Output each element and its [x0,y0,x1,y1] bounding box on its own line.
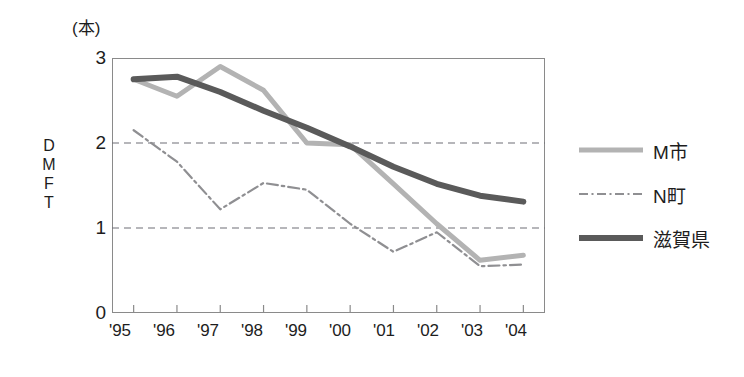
legend-swatch-m-city [578,142,644,158]
legend-item-m-city: M市 [578,128,738,172]
y-tick-label-3: 3 [80,48,106,67]
series-line-m-city [134,67,524,261]
y-axis-unit-label: (本) [72,14,100,39]
legend-label-n-town: N町 [653,181,686,208]
x-axis-ticks [134,305,524,313]
y-tick-label-0: 0 [80,303,106,322]
x-tick-label-99: '99 [275,322,317,340]
y-axis-title-char-f: F [38,174,60,193]
legend-swatch-n-town [578,186,644,202]
y-axis-title-char-d: D [38,136,60,155]
x-tick-label-98: '98 [231,322,273,340]
x-tick-label-97: '97 [187,322,229,340]
x-tick-label-95: '95 [99,322,141,340]
chart-figure: (本) D M F T 3 2 1 0 '95 '96 '97 '98 '99 … [0,0,744,377]
y-tick-label-1: 1 [80,218,106,237]
x-tick-label-00: '00 [319,322,361,340]
chart-legend: M市 N町 滋賀県 [578,128,738,260]
x-tick-label-01: '01 [363,322,405,340]
x-tick-label-03: '03 [451,322,493,340]
legend-swatch-prefecture [578,230,644,246]
legend-item-n-town: N町 [578,172,738,216]
y-tick-label-2: 2 [80,133,106,152]
series-line-prefecture [134,77,524,202]
legend-item-prefecture: 滋賀県 [578,216,738,260]
y-axis-title-char-t: T [38,193,60,212]
y-axis-title: D M F T [38,136,60,212]
y-axis-title-char-m: M [38,155,60,174]
plot-area [112,58,545,313]
x-tick-label-04: '04 [495,322,537,340]
chart-svg [112,58,545,313]
legend-label-m-city: M市 [653,137,688,164]
gridlines [112,143,545,228]
x-tick-label-96: '96 [143,322,185,340]
x-tick-label-02: '02 [407,322,449,340]
legend-label-prefecture: 滋賀県 [653,225,710,252]
